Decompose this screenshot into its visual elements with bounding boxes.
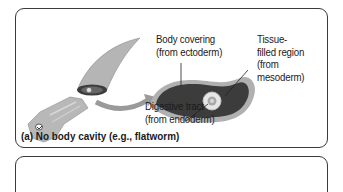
label-digestive-tract: Digestive tract (from endoderm) (145, 100, 214, 125)
label-body-covering: Body covering (from ectoderm) (156, 33, 222, 58)
arrow-icon (96, 100, 148, 109)
label-tissue-filled-region: Tissue- filled region (from mesoderm) (257, 33, 304, 83)
flatworm-icon (28, 38, 140, 142)
panel-a-caption: (a) No body cavity (e.g., flatworm) (21, 130, 179, 142)
flatworm-illustration (0, 0, 343, 192)
